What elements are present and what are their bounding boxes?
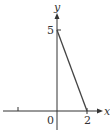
y-axis-label: y	[53, 1, 61, 14]
y-tick-label-5: 5	[47, 24, 54, 37]
origin-label: 0	[47, 114, 54, 127]
data-segment	[57, 30, 87, 111]
x-tick-label-2: 2	[84, 114, 91, 127]
x-axis-arrow-icon	[97, 109, 103, 114]
x-axis-label: x	[104, 105, 110, 118]
graph: y x 5 0 2	[0, 0, 110, 140]
